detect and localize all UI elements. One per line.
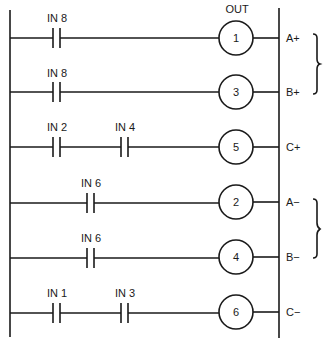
contact-label: IN 8 <box>47 12 67 24</box>
contact-no <box>53 137 60 157</box>
contact-label: IN 3 <box>115 287 135 299</box>
output-label: C− <box>286 306 300 318</box>
contact-label: IN 6 <box>81 232 101 244</box>
contact-no <box>53 82 60 102</box>
output-label: A− <box>286 196 300 208</box>
output-label: B− <box>286 251 300 263</box>
brace-retract-group <box>313 199 320 258</box>
contact-no <box>87 248 94 268</box>
rung-2: IN 8 3 B+ <box>10 67 300 109</box>
coil-number: 1 <box>233 32 239 44</box>
contact-no <box>121 303 128 323</box>
coil-number: 2 <box>233 196 239 208</box>
rung-1: IN 8 1 A+ <box>10 12 300 55</box>
contact-no <box>87 193 94 213</box>
coil-number: 4 <box>233 251 239 263</box>
contact-label: IN 8 <box>47 67 67 79</box>
brace-extend-group <box>313 34 320 94</box>
contact-no <box>121 137 128 157</box>
coil-number: 6 <box>233 306 239 318</box>
contact-label: IN 4 <box>115 121 135 133</box>
coil-number: 3 <box>233 86 239 98</box>
contact-label: IN 2 <box>47 121 67 133</box>
contact-no <box>53 303 60 323</box>
output-label: C+ <box>286 141 300 153</box>
coil-number: 5 <box>233 141 239 153</box>
rung-6: IN 1 IN 3 6 C− <box>10 287 300 329</box>
output-label: B+ <box>286 86 300 98</box>
contact-label: IN 1 <box>47 287 67 299</box>
out-header: OUT <box>225 3 249 15</box>
ladder-diagram: OUT IN 8 1 A+ IN 8 3 B+ IN 2 <box>0 0 326 342</box>
rung-5: IN 6 4 B− <box>10 232 300 274</box>
rung-3: IN 2 IN 4 5 C+ <box>10 121 300 164</box>
output-label: A+ <box>286 32 300 44</box>
contact-no <box>53 28 60 48</box>
rung-4: IN 6 2 A− <box>10 177 300 219</box>
contact-label: IN 6 <box>81 177 101 189</box>
